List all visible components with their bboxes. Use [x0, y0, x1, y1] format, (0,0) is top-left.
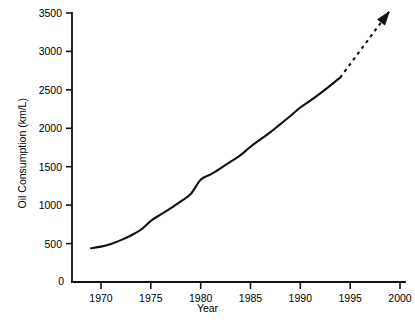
- x-tick-label-1985: 1985: [239, 293, 262, 304]
- x-axis-title: Year: [0, 303, 415, 314]
- y-tick-label-500: 500: [18, 238, 62, 249]
- y-axis-title: Oil Consumption (km/L): [17, 73, 28, 233]
- x-tick-label-1975: 1975: [139, 293, 162, 304]
- x-axis-ticks: [101, 282, 400, 289]
- series-line-observed: [91, 78, 340, 249]
- x-tick-label-2000: 2000: [388, 293, 411, 304]
- x-tick-label-1970: 1970: [89, 293, 112, 304]
- y-tick-label-3000: 3000: [18, 46, 62, 57]
- chart-figure: 3500 3000 2500 2000 1500 1000 500 0 1970…: [0, 0, 415, 323]
- x-tick-label-1995: 1995: [339, 293, 362, 304]
- x-tick-label-1990: 1990: [289, 293, 312, 304]
- origin-zero-label: 0: [48, 276, 64, 287]
- projection-arrowhead-icon: [378, 12, 390, 25]
- y-tick-label-3500: 3500: [18, 8, 62, 19]
